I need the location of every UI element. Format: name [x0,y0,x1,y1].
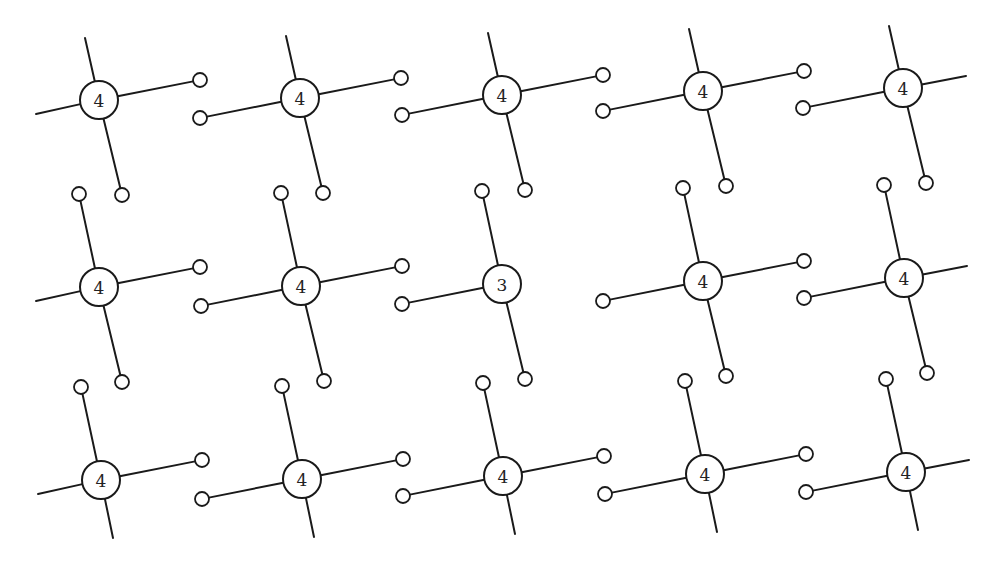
bond-down [305,304,322,374]
electron-circle [195,453,209,467]
bond-right [922,76,966,84]
bond-down [103,118,120,188]
electron-circle [317,374,331,388]
electron-circle [796,101,810,115]
atom-valence-label: 4 [96,471,107,491]
bond-right [118,268,193,283]
bond-down [707,299,724,369]
bond-right [321,460,396,475]
electron-circle [719,369,733,383]
electron-circle [274,186,288,200]
crystal-lattice-diagram: 444444434444444 [0,0,1005,565]
electron-circle [396,489,410,503]
atom-valence-label: 4 [898,79,909,99]
electron-circle [475,184,489,198]
bond-left [209,483,284,498]
atom-node: 4 [885,259,923,297]
bond-left [409,99,484,114]
electron-circle [316,186,330,200]
bond-up [488,33,498,76]
atom-node: 4 [484,457,522,495]
atom-node: 4 [282,267,320,305]
atom-node: 4 [80,81,118,119]
electron-circle [275,379,289,393]
electron-circle [598,487,612,501]
electron-circle [678,374,692,388]
bond-down [103,305,120,375]
bond-right [319,79,394,94]
atom-node: 4 [483,76,521,114]
electron-circle [797,254,811,268]
bond-down [506,302,523,372]
atom-valence-label: 4 [698,272,709,292]
bond-up [686,388,701,456]
bond-down [907,106,924,176]
atom-valence-label: 4 [498,467,509,487]
bond-left [811,282,886,297]
bond-up [286,36,296,79]
atom-node: 4 [887,453,925,491]
bond-left [813,476,888,491]
electron-circle [194,299,208,313]
electron-circle [395,297,409,311]
bond-left [36,291,80,301]
electron-circle [518,372,532,386]
electron-circle [797,64,811,78]
bond-up [689,29,699,72]
atom-node: 4 [80,268,118,306]
electron-circle [115,375,129,389]
atom-node: 4 [283,460,321,498]
bond-up [887,386,902,454]
bond-right [724,455,799,470]
bond-right [522,457,597,472]
bond-up [85,38,95,81]
electron-circle [920,366,934,380]
electron-circle [395,259,409,273]
bond-up [484,390,499,458]
bond-up [82,394,97,462]
electron-circle [919,176,933,190]
bond-right [923,266,967,274]
atom-valence-label: 4 [700,465,711,485]
electron-circle [195,492,209,506]
bond-left [612,478,687,493]
atom-valence-label: 4 [698,82,709,102]
atom-node: 4 [884,69,922,107]
electron-circle [877,178,891,192]
electron-circle [597,449,611,463]
electron-circle [596,68,610,82]
bond-right [320,267,395,282]
electron-circle [193,260,207,274]
electron-circle [72,187,86,201]
bond-up [684,195,699,263]
electron-circle [395,108,409,122]
bond-right [925,460,969,468]
bond-down [507,495,515,534]
atom-node: 3 [483,265,521,303]
bond-up [889,26,899,69]
bond-left [610,285,685,300]
electron-circle [394,71,408,85]
bond-left [410,480,485,495]
bond-right [521,76,596,91]
bond-down [105,499,113,538]
bond-down [908,296,925,366]
electron-circle [719,179,733,193]
electron-circle [193,111,207,125]
atom-valence-label: 4 [297,470,308,490]
atom-valence-label: 4 [497,86,508,106]
electron-circle [799,485,813,499]
bond-down [304,116,321,186]
electron-circle [676,181,690,195]
bond-left [38,484,82,494]
bond-right [722,262,797,277]
bond-up [885,192,900,260]
atom-valence-label: 4 [899,269,910,289]
atom-valence-label: 4 [94,91,105,111]
bond-down [707,109,724,179]
bond-up [483,198,498,266]
electron-circle [74,380,88,394]
atom-node: 4 [686,455,724,493]
atom-valence-label: 3 [497,275,508,295]
electron-circle [193,73,207,87]
